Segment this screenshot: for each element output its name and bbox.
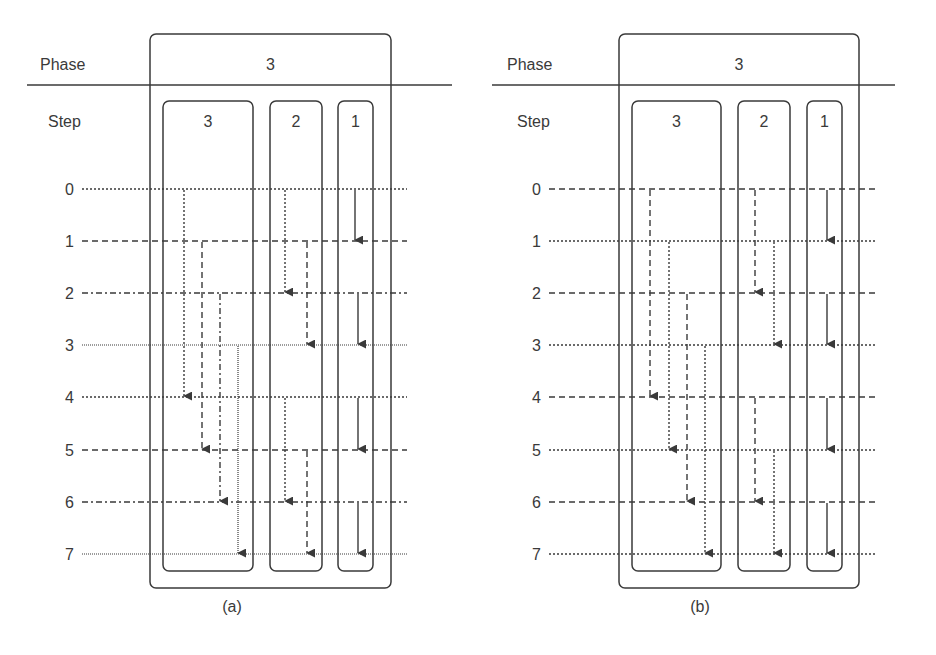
step-number-6: 6 [65,494,74,511]
step-box-3 [632,101,721,571]
step-number-7: 7 [532,546,541,563]
step-box-label: 2 [292,113,301,130]
bitonic-phase-diagram: 3PhaseStep32101234567(a) 3PhaseStep32101… [0,0,936,655]
step-number-3: 3 [532,337,541,354]
step-box-label: 1 [351,113,360,130]
phase-label: Phase [40,56,85,73]
step-number-5: 5 [532,442,541,459]
step-box-label: 3 [204,113,213,130]
step-box-1 [338,101,373,571]
diagram-a: 3PhaseStep32101234567(a) [27,34,452,615]
phase-label: Phase [507,56,552,73]
step-number-4: 4 [65,389,74,406]
step-number-0: 0 [65,181,74,198]
step-number-7: 7 [65,546,74,563]
step-box-label: 3 [672,113,681,130]
step-number-1: 1 [532,233,541,250]
step-number-4: 4 [532,389,541,406]
step-number-1: 1 [65,233,74,250]
phase-number: 3 [735,56,744,73]
step-box-2 [738,101,790,571]
step-number-5: 5 [65,442,74,459]
diagram-b: 3PhaseStep32101234567(b) [492,34,895,615]
step-number-3: 3 [65,337,74,354]
step-number-2: 2 [532,285,541,302]
step-box-1 [807,101,842,571]
step-box-label: 1 [820,113,829,130]
caption-a: (a) [222,598,242,615]
step-number-6: 6 [532,494,541,511]
step-label: Step [517,113,550,130]
phase-number: 3 [266,56,275,73]
step-box-label: 2 [760,113,769,130]
figure: 3PhaseStep32101234567(a) 3PhaseStep32101… [0,0,936,655]
step-label: Step [48,113,81,130]
step-box-3 [163,101,253,571]
step-number-2: 2 [65,285,74,302]
caption-b: (b) [690,598,710,615]
step-box-2 [270,101,322,571]
step-number-0: 0 [532,181,541,198]
